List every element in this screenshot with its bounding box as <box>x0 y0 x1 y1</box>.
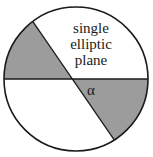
shaded-region-upper-left <box>4 0 72 79</box>
label-line-3: plane <box>75 52 108 68</box>
angle-alpha-label: α <box>87 82 95 98</box>
label-line-1: single <box>73 20 109 36</box>
elliptic-plane-diagram: single elliptic plane α <box>0 0 153 157</box>
shaded-region-lower-right <box>72 79 150 157</box>
label-line-2: elliptic <box>70 36 112 52</box>
